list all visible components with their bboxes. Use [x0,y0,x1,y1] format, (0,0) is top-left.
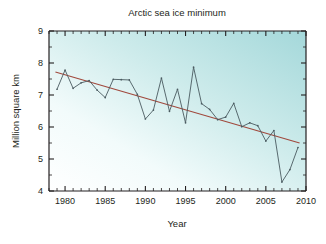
data-point-marker [265,140,267,142]
x-tick-label: 1995 [176,196,196,206]
data-point-marker [169,110,171,112]
plot-background [49,31,306,191]
data-point-marker [193,66,195,68]
data-point-marker [201,103,203,105]
y-tick-label: 5 [38,154,43,164]
data-point-marker [241,126,243,128]
data-point-marker [185,122,187,124]
data-point-marker [153,109,155,111]
data-point-marker [217,119,219,121]
data-point-marker [72,87,74,89]
y-axis-tick-labels: 456789 [38,26,43,196]
data-point-marker [96,89,98,91]
y-tick-label: 8 [38,58,43,68]
arctic-sea-ice-line-chart: 1980198519901995200020052010 456789 Arct… [0,0,326,244]
data-point-marker [225,116,227,118]
data-point-marker [104,97,106,99]
data-point-marker [112,78,114,80]
data-point-marker [161,77,163,79]
y-tick-label: 7 [38,90,43,100]
data-point-marker [80,82,82,84]
data-point-marker [249,122,251,124]
data-point-marker [297,147,299,149]
data-point-marker [209,109,211,111]
data-point-marker [56,88,58,90]
y-axis-label: Million square km [10,74,21,148]
data-point-marker [257,125,259,127]
data-point-marker [233,102,235,104]
data-point-marker [289,169,291,171]
x-tick-label: 1985 [95,196,115,206]
data-point-marker [273,130,275,132]
data-point-marker [281,181,283,183]
x-tick-label: 1990 [135,196,155,206]
x-tick-label: 2010 [296,196,316,206]
x-axis-label: Year [167,218,186,229]
data-point-marker [145,118,147,120]
x-tick-label: 2000 [216,196,236,206]
x-axis-tick-labels: 1980198519901995200020052010 [55,196,316,206]
data-point-marker [88,80,90,82]
x-tick-label: 2005 [256,196,276,206]
data-point-marker [177,88,179,90]
chart-figure: 1980198519901995200020052010 456789 Arct… [0,0,326,244]
chart-title: Arctic sea ice minimum [128,7,226,18]
data-point-marker [128,79,130,81]
data-point-marker [136,94,138,96]
data-point-marker [120,79,122,81]
y-tick-label: 9 [38,26,43,36]
x-tick-label: 1980 [55,196,75,206]
y-tick-label: 4 [38,186,43,196]
y-tick-label: 6 [38,122,43,132]
data-point-marker [64,69,66,71]
